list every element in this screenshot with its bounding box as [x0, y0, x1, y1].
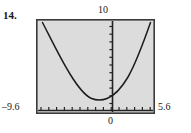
origin-label: 0: [108, 115, 113, 126]
problem-number-label: 14.: [3, 9, 17, 21]
x-min-label: –9.6: [2, 101, 20, 112]
plot-svg: [36, 19, 155, 114]
graph-figure: 14.: [0, 0, 191, 133]
graphing-calculator-plot: [36, 19, 155, 114]
x-max-label: 5.6: [158, 101, 171, 112]
y-max-label: 10: [98, 4, 108, 15]
